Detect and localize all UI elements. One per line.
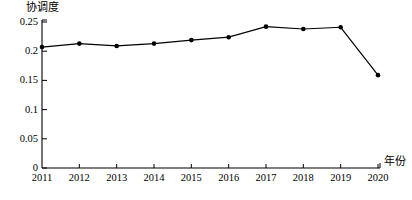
x-tick-label: 2013 bbox=[97, 173, 137, 184]
x-tick-label: 2015 bbox=[171, 173, 211, 184]
data-point bbox=[226, 35, 231, 40]
x-tick-label: 2020 bbox=[358, 173, 398, 184]
y-tick-label: 0.2 bbox=[0, 46, 38, 57]
x-tick-label: 2017 bbox=[246, 173, 286, 184]
y-tick-label: 0.25 bbox=[0, 17, 38, 28]
data-point bbox=[338, 25, 343, 30]
y-tick-label: 0.05 bbox=[0, 134, 38, 145]
y-tick-label: 0.1 bbox=[0, 105, 38, 116]
x-tick-label: 2014 bbox=[134, 173, 174, 184]
x-tick-marks bbox=[79, 164, 378, 168]
axis-lines bbox=[42, 20, 380, 168]
y-axis-title: 协调度 bbox=[26, 2, 59, 13]
data-point bbox=[77, 41, 82, 46]
chart-plot-area bbox=[0, 0, 412, 200]
data-point bbox=[301, 27, 306, 32]
x-tick-label: 2018 bbox=[283, 173, 323, 184]
data-point bbox=[152, 41, 157, 46]
x-axis-title: 年份 bbox=[384, 156, 406, 167]
data-point bbox=[264, 24, 269, 29]
line-chart: 协调度 年份 0.250.20.150.10.050 2011201220132… bbox=[0, 0, 412, 200]
x-tick-label: 2019 bbox=[321, 173, 361, 184]
x-tick-label: 2016 bbox=[209, 173, 249, 184]
data-series-line bbox=[42, 27, 378, 75]
data-point bbox=[189, 38, 194, 43]
data-point-markers bbox=[40, 24, 381, 77]
x-tick-label: 2012 bbox=[59, 173, 99, 184]
y-tick-label: 0.15 bbox=[0, 75, 38, 86]
x-tick-label: 2011 bbox=[22, 173, 62, 184]
data-point bbox=[40, 45, 45, 50]
data-point bbox=[114, 44, 119, 49]
data-point bbox=[376, 73, 381, 78]
y-tick-marks bbox=[42, 22, 47, 168]
